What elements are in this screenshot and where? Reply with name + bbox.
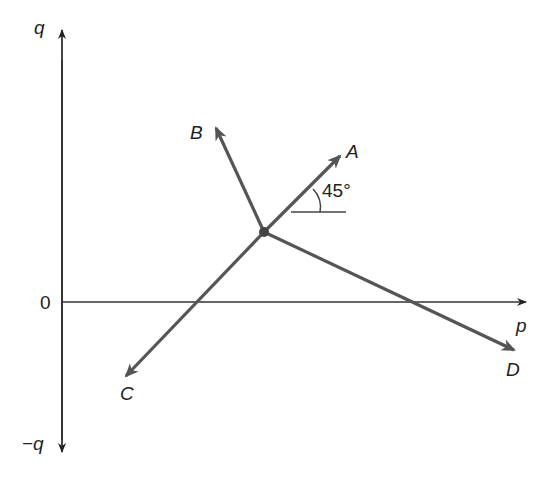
- vector-d: [264, 232, 514, 350]
- diagram-canvas: q −q 0 p A B C D 45°: [0, 0, 540, 483]
- vector-d-label: D: [506, 359, 520, 380]
- vector-b: [216, 128, 264, 232]
- vector-b-label: B: [190, 122, 203, 143]
- center-point: [259, 227, 269, 237]
- q-axis-bottom-label: −q: [22, 433, 44, 454]
- p-axis-label: p: [515, 315, 527, 336]
- q-axis-top-label: q: [34, 17, 45, 38]
- angle-label: 45°: [322, 180, 351, 201]
- vector-a-label: A: [345, 141, 359, 162]
- vector-c-label: C: [120, 383, 134, 404]
- origin-label: 0: [40, 292, 51, 313]
- angle-arc: [313, 189, 320, 212]
- vector-c: [126, 232, 264, 376]
